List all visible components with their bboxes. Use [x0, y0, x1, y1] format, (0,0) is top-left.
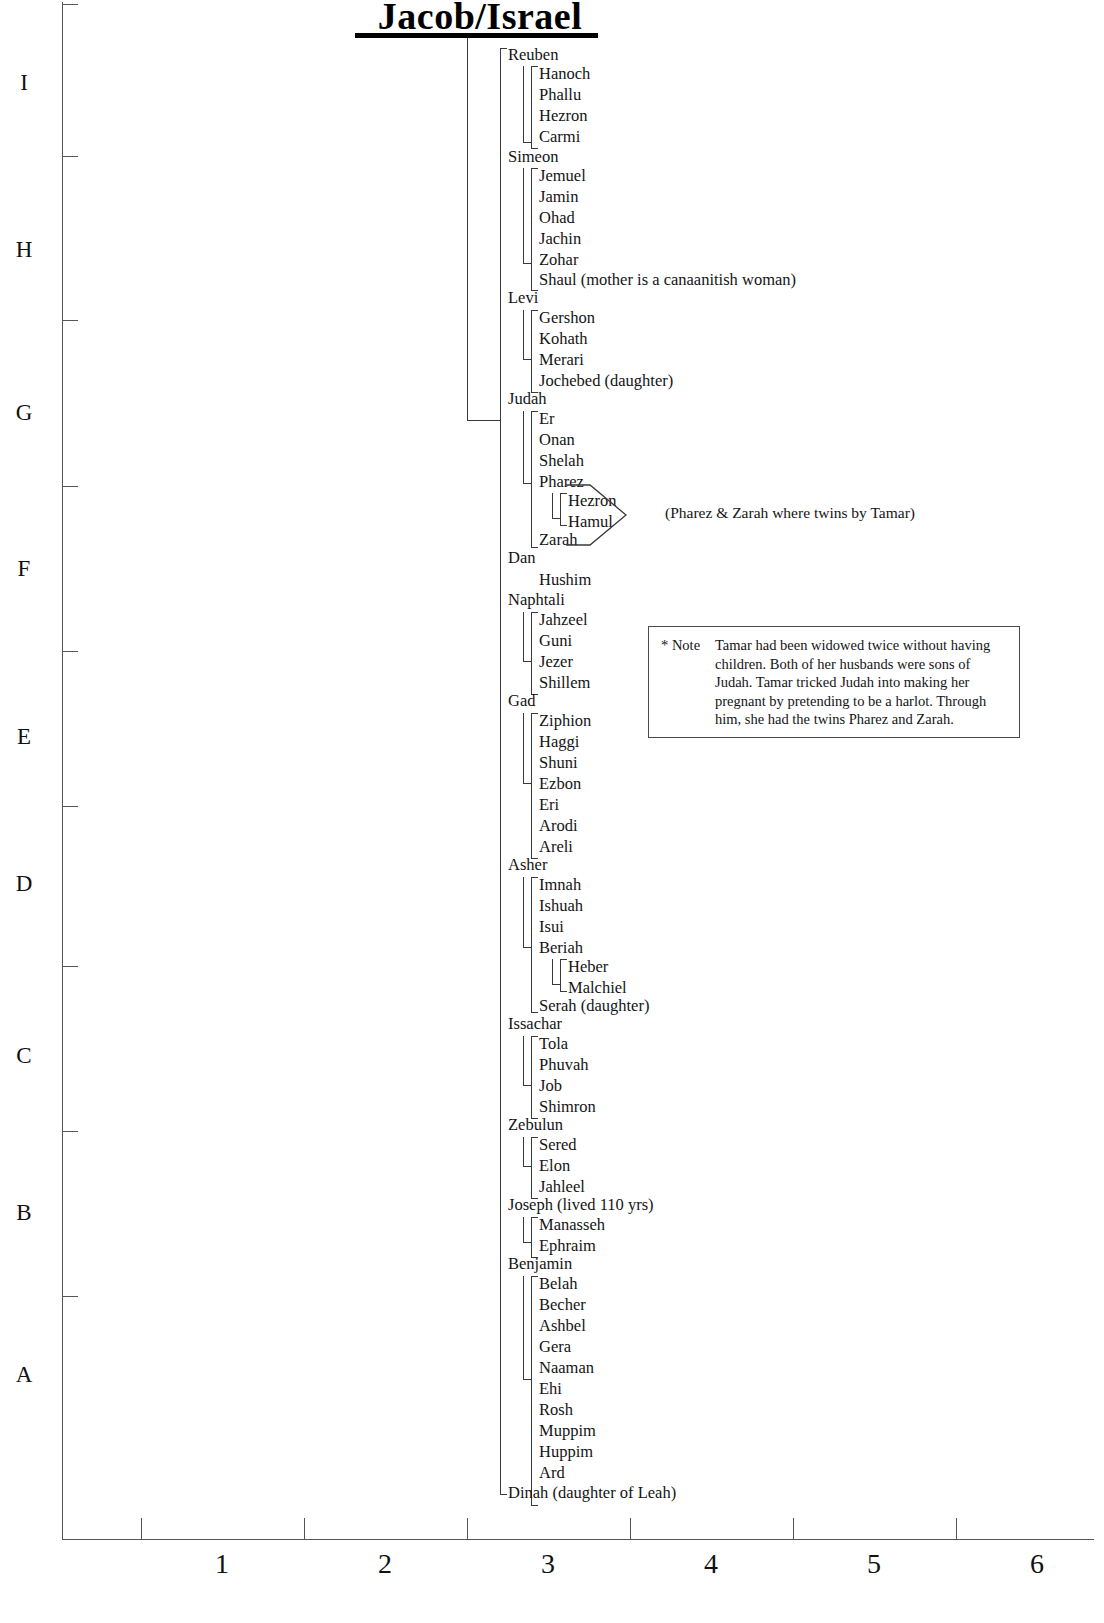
beriah-child-cap — [552, 984, 560, 985]
node-reuben: Reuben — [508, 45, 558, 65]
zebulun-child-cap — [523, 1166, 531, 1167]
pharez-child-spine — [552, 493, 553, 518]
note-marker: * Note — [661, 636, 713, 655]
twins-brace-icon — [566, 483, 662, 547]
judah-child-cap — [523, 483, 531, 484]
y-axis-label-H: H — [2, 237, 46, 263]
node-jahzeel: Jahzeel — [539, 610, 588, 630]
node-heber: Heber — [568, 957, 608, 977]
levi-child-spine — [523, 310, 524, 359]
node-jahleel: Jahleel — [539, 1177, 585, 1197]
node-gad: Gad — [508, 691, 536, 711]
asher-child-spine — [523, 877, 524, 947]
node-judah: Judah — [508, 389, 547, 409]
node-ehi: Ehi — [539, 1379, 562, 1399]
x-axis-label-2: 2 — [363, 1548, 407, 1580]
benjamin-child-spine — [523, 1276, 524, 1379]
node-ishuah: Ishuah — [539, 896, 583, 916]
node-naaman: Naaman — [539, 1358, 594, 1378]
node-imnah: Imnah — [539, 875, 581, 895]
judah-child-spine — [523, 411, 524, 483]
node-phuvah: Phuvah — [539, 1055, 589, 1075]
node-huppim: Huppim — [539, 1442, 593, 1462]
y-axis-tick — [62, 1131, 78, 1132]
node-jamin: Jamin — [539, 187, 578, 207]
node-ashbel: Ashbel — [539, 1316, 586, 1336]
x-axis-tick — [793, 1518, 794, 1539]
reuben-child-spine — [523, 66, 524, 142]
zebulun-child-top-cap — [531, 1137, 538, 1138]
node-shillem: Shillem — [539, 673, 590, 693]
y-axis-label-D: D — [2, 871, 46, 897]
node-jezer: Jezer — [539, 652, 573, 672]
node-issachar: Issachar — [508, 1014, 562, 1034]
node-arodi: Arodi — [539, 816, 578, 836]
asher-child-top-cap — [531, 877, 538, 878]
judah-child-bar — [531, 411, 532, 547]
node-serah: Serah (daughter) — [539, 996, 649, 1016]
node-guni: Guni — [539, 631, 572, 651]
node-levi: Levi — [508, 288, 538, 308]
node-gershon: Gershon — [539, 308, 595, 328]
node-shelah: Shelah — [539, 451, 584, 471]
naphtali-child-spine — [523, 612, 524, 661]
benjamin-child-bottom-cap — [531, 1505, 538, 1506]
issachar-child-spine — [523, 1036, 524, 1085]
node-rosh: Rosh — [539, 1400, 573, 1420]
node-onan: Onan — [539, 430, 575, 450]
joseph-child-top-cap — [531, 1217, 538, 1218]
node-ephraim: Ephraim — [539, 1236, 596, 1256]
gad-child-cap — [523, 783, 531, 784]
node-shuni: Shuni — [539, 753, 578, 773]
naphtali-child-top-cap — [531, 612, 538, 613]
y-axis-tick — [62, 320, 78, 321]
node-sered: Sered — [539, 1135, 577, 1155]
y-axis-tick — [62, 806, 78, 807]
node-dinah: Dinah (daughter of Leah) — [508, 1483, 676, 1503]
node-shaul: Shaul (mother is a canaanitish woman) — [539, 270, 796, 290]
node-manasseh: Manasseh — [539, 1215, 605, 1235]
node-merari: Merari — [539, 350, 584, 370]
node-kohath: Kohath — [539, 329, 588, 349]
reuben-child-cap — [523, 142, 531, 143]
asher-child-bar — [531, 877, 532, 1012]
spine-top-cap — [500, 48, 507, 49]
node-naphtali: Naphtali — [508, 590, 565, 610]
node-hanoch: Hanoch — [539, 64, 590, 84]
tribe-spine-line — [500, 48, 501, 1494]
node-zebulun: Zebulun — [508, 1115, 563, 1135]
root-connector-line — [467, 420, 501, 421]
twins-caption: (Pharez & Zarah where twins by Tamar) — [665, 504, 915, 522]
title-underline — [355, 33, 598, 38]
levi-child-cap — [523, 359, 531, 360]
gad-child-bar — [531, 713, 532, 858]
beriah-child-bar — [560, 959, 561, 991]
x-axis-tick — [141, 1518, 142, 1539]
beriah-child-top-cap — [560, 959, 567, 960]
benjamin-child-top-cap — [531, 1276, 538, 1277]
node-malchiel: Malchiel — [568, 978, 627, 998]
node-isui: Isui — [539, 917, 564, 937]
node-shimron: Shimron — [539, 1097, 596, 1117]
node-tola: Tola — [539, 1034, 568, 1054]
reuben-child-bar — [531, 66, 532, 148]
benjamin-child-cap — [523, 1379, 531, 1380]
node-muppim: Muppim — [539, 1421, 596, 1441]
node-elon: Elon — [539, 1156, 570, 1176]
zebulun-child-spine — [523, 1137, 524, 1166]
issachar-child-top-cap — [531, 1036, 538, 1037]
node-hezron-reuben: Hezron — [539, 106, 588, 126]
simeon-child-bar — [531, 168, 532, 290]
pharez-child-cap — [552, 518, 560, 519]
spine-bottom-cap — [500, 1494, 507, 1495]
asher-child-cap — [523, 947, 531, 948]
simeon-child-top-cap — [531, 168, 538, 169]
levi-child-bar — [531, 310, 532, 392]
y-axis-label-E: E — [2, 724, 46, 750]
simeon-child-cap — [523, 263, 531, 264]
node-jochebed: Jochebed (daughter) — [539, 371, 673, 391]
node-ohad: Ohad — [539, 208, 575, 228]
joseph-child-bar — [531, 1217, 532, 1257]
y-axis-tick — [62, 486, 78, 487]
node-eri: Eri — [539, 795, 559, 815]
